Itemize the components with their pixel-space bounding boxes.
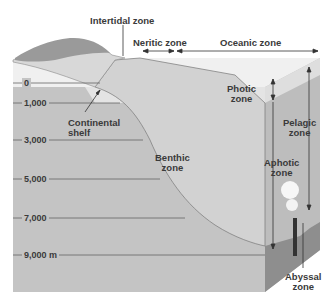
hydrothermal-plume-2 (286, 199, 298, 211)
benthic-zone-label: Benthic zone (155, 153, 190, 173)
pelagic-zone-label: Pelagic zone (283, 118, 316, 138)
trench-vent (293, 218, 297, 256)
continental-shelf-label: Continental shelf (68, 118, 120, 138)
photic-zone-label: Photic zone (227, 84, 256, 104)
abyssal-zone-label: Abyssal zone (285, 272, 321, 292)
depth-label-7000: 7,000 (22, 213, 49, 223)
hydrothermal-plume (281, 181, 299, 199)
depth-label-0: 0 (22, 78, 31, 88)
depth-label-1000: 1,000 (22, 98, 49, 108)
pelagic-line2: zone (283, 128, 316, 138)
continental-shelf-line2: shelf (68, 128, 120, 138)
aphotic-zone-label: Aphotic zone (264, 158, 299, 178)
depth-label-3000: 3,000 (22, 135, 49, 145)
intertidal-zone-label: Intertidal zone (90, 16, 154, 26)
aphotic-line2: zone (264, 168, 299, 178)
oceanic-zone-label: Oceanic zone (220, 38, 281, 48)
neritic-zone-label: Neritic zone (133, 38, 187, 48)
depth-label-9000: 9,000 m (22, 250, 59, 260)
photic-line2: zone (227, 94, 256, 104)
abyssal-line2: zone (285, 282, 321, 292)
benthic-line2: zone (155, 163, 190, 173)
depth-label-5000: 5,000 (22, 174, 49, 184)
